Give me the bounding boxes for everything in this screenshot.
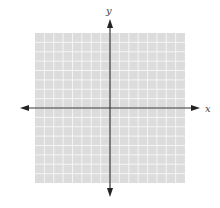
x-axis-right-arrow-icon: [191, 105, 200, 111]
coordinate-plane: x y: [0, 0, 220, 208]
x-axis-left-arrow-icon: [20, 105, 29, 111]
y-axis-down-arrow-icon: [107, 188, 113, 197]
y-axis-up-arrow-icon: [107, 19, 113, 28]
y-axis-label: y: [105, 5, 112, 16]
x-axis-label: x: [205, 103, 211, 114]
